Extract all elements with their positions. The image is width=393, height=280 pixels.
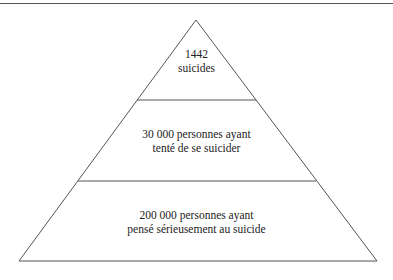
level-middle-line1: 30 000 personnes ayant <box>0 128 393 142</box>
level-middle-label: 30 000 personnes ayant tenté de se suici… <box>0 128 393 155</box>
level-top-label: 1442 suicides <box>0 48 393 75</box>
level-top-text: suicides <box>0 62 393 76</box>
level-middle-line2: tenté de se suicider <box>0 142 393 156</box>
level-top-number: 1442 <box>0 48 393 62</box>
level-bottom-label: 200 000 personnes ayant pensé sérieuseme… <box>0 209 393 236</box>
level-bottom-line1: 200 000 personnes ayant <box>0 209 393 223</box>
level-bottom-line2: pensé sérieusement au suicide <box>0 223 393 237</box>
